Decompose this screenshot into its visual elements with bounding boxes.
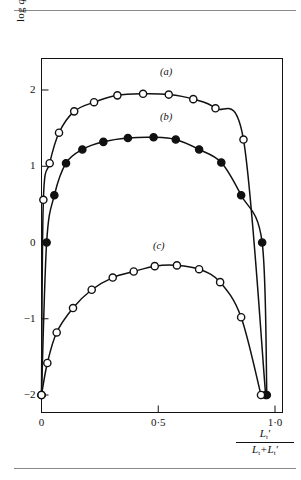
y-tick-label: −2 <box>16 388 36 400</box>
data-point <box>44 359 51 366</box>
data-point <box>71 108 78 115</box>
data-point <box>190 96 197 103</box>
curve-label: (b) <box>160 111 172 122</box>
data-point <box>55 129 62 136</box>
y-axis-title-variable: q <box>14 0 26 4</box>
data-point <box>217 279 224 286</box>
data-point <box>43 239 50 246</box>
data-point <box>259 239 266 246</box>
data-point <box>257 391 264 398</box>
series-3 <box>38 262 265 399</box>
x-tick-label: 1·0 <box>260 416 290 428</box>
data-point <box>130 268 137 275</box>
data-point <box>124 134 131 141</box>
x-axis-title: Lt′ Lt+Lt′ <box>236 428 294 458</box>
y-tick-label: 2 <box>16 83 36 95</box>
data-point <box>165 91 172 98</box>
y-tick-label: −1 <box>16 312 36 324</box>
data-point <box>51 192 58 199</box>
data-point <box>238 192 245 199</box>
data-point <box>38 391 45 398</box>
y-axis-title: log q <box>14 0 26 22</box>
y-tick-label: 1 <box>16 159 36 171</box>
data-point <box>40 196 47 203</box>
data-point <box>218 159 225 166</box>
curve-label: (c) <box>153 240 165 251</box>
data-point <box>238 314 245 321</box>
figure-root: log q Lt′ Lt+Lt′ 210−1−2 00·51·0 (a)(b)(… <box>0 0 301 480</box>
data-point <box>109 274 116 281</box>
x-axis-numerator: Lt′ <box>236 428 294 443</box>
data-point <box>90 99 97 106</box>
plot-area <box>0 0 301 480</box>
y-axis-title-text: log <box>14 7 26 22</box>
data-point <box>150 134 157 141</box>
data-point <box>240 136 247 143</box>
curve-label: (a) <box>160 66 172 77</box>
data-point <box>100 138 107 145</box>
data-point <box>62 160 69 167</box>
x-axis-denominator: Lt+Lt′ <box>236 443 294 457</box>
y-tick-label: 0 <box>16 236 36 248</box>
data-point <box>151 263 158 270</box>
x-tick-label: 0·5 <box>143 416 173 428</box>
data-point <box>173 262 180 269</box>
data-point <box>172 136 179 143</box>
data-point <box>196 266 203 273</box>
data-point <box>79 146 86 153</box>
data-point <box>196 146 203 153</box>
data-point <box>53 329 60 336</box>
x-tick-label: 0 <box>27 416 57 428</box>
data-point <box>114 92 121 99</box>
data-point <box>212 105 219 112</box>
data-point <box>69 304 76 311</box>
data-point <box>88 286 95 293</box>
data-point <box>46 160 53 167</box>
series-line <box>42 265 261 395</box>
data-point <box>139 90 146 97</box>
